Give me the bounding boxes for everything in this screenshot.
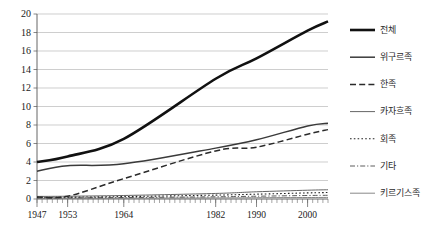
gridline-group [37, 14, 328, 181]
y-tick-label: 0 [26, 193, 31, 204]
legend-label: 전체 [380, 25, 396, 35]
y-tick-label: 12 [21, 82, 31, 93]
x-tick-label: 1947 [28, 210, 47, 220]
y-tick-label: 20 [21, 8, 31, 19]
series-line [37, 193, 328, 198]
legend-label: 위구르족 [380, 52, 412, 62]
legend-label: 한족 [380, 79, 396, 89]
legend-label: 회족 [380, 134, 396, 144]
series-line [37, 123, 328, 171]
series-line [37, 21, 328, 162]
legend-label: 기타 [380, 161, 397, 171]
y-tick-label: 10 [21, 101, 31, 112]
legend-label: 키르기스족 [380, 188, 420, 198]
x-tick-label: 1982 [206, 210, 225, 220]
series-line [37, 130, 328, 198]
legend-label: 카자흐족 [380, 106, 412, 116]
x-tick-label: 1953 [58, 210, 77, 220]
y-tick-label: 8 [26, 119, 31, 130]
y-tick-label: 18 [21, 27, 31, 38]
x-tick-label: 2000 [298, 210, 317, 220]
chart-canvas: 02468101214161820 1947195319641982199020… [0, 0, 427, 251]
series-group [37, 21, 328, 198]
x-tick-label: 1964 [114, 210, 133, 220]
y-tick-label: 2 [26, 175, 31, 186]
y-tick-label: 14 [21, 64, 31, 75]
y-tick-label: 16 [21, 45, 31, 56]
y-tick-label: 4 [26, 156, 31, 167]
y-tick-label: 6 [26, 138, 31, 149]
chart-legend: 전체위구르족한족카자흐족회족기타키르기스족 [350, 25, 420, 198]
x-tick-label: 1990 [247, 210, 266, 220]
line-chart: 02468101214161820 1947195319641982199020… [0, 0, 427, 251]
x-axis: 194719531964198219902000 [28, 199, 329, 220]
